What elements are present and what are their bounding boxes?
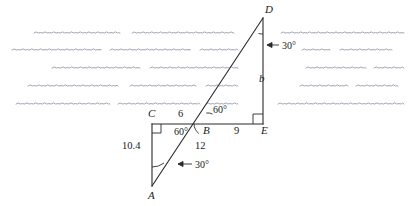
water-wave-line (150, 67, 238, 68)
arc-angle-D (259, 34, 264, 35)
water-wave-line (34, 32, 120, 33)
water-wave-line (374, 67, 404, 68)
water-wave-line (52, 67, 140, 68)
water-wave-line (118, 103, 200, 104)
water-wave-line (200, 49, 238, 50)
geometry-figure: ABCDE 6910.412b 30°60°60°30° (0, 0, 413, 206)
vertex-label-B: B (203, 124, 210, 136)
length-CB: 6 (178, 108, 183, 119)
figure-canvas: ABCDE 6910.412b 30°60°60°30° (0, 0, 413, 206)
length-labels: 6910.412b (122, 72, 265, 151)
water-wave-line (306, 67, 366, 68)
angle-at-D: 30° (282, 40, 296, 51)
water-wave-line (28, 85, 118, 86)
water-wave-line (278, 103, 404, 104)
arrow-to-angle-D (267, 43, 279, 48)
water-wave-line (206, 85, 238, 86)
angle-arcs (152, 34, 263, 168)
angle-at-A: 30° (195, 159, 209, 170)
water-wave-line (132, 32, 234, 33)
vertex-label-D: D (264, 3, 273, 15)
angle-at-B-lower: 60° (174, 126, 188, 137)
arc-angle-B-upper (206, 113, 212, 114)
arrow-to-angle-A (178, 162, 192, 167)
vertex-label-E: E (260, 124, 268, 136)
water-wave-line (356, 85, 398, 86)
length-CA: 10.4 (122, 140, 141, 151)
water-wave-line (281, 32, 404, 33)
length-DE: b (259, 72, 265, 84)
water-wave-line (16, 103, 110, 104)
water-wave-line (12, 49, 101, 50)
water-wave-line (300, 85, 348, 86)
water-wave-line (302, 49, 330, 50)
right-angle-C (152, 124, 161, 133)
arc-angle-B-lower (194, 124, 199, 134)
length-AB: 12 (195, 140, 206, 151)
water-waves (12, 32, 404, 104)
angle-pointer-arrows (178, 43, 279, 167)
water-wave-line (340, 49, 392, 50)
right-angle-E (253, 114, 263, 124)
angle-at-B-upper: 60° (213, 104, 227, 115)
vertex-label-C: C (148, 107, 156, 119)
vertex-label-A: A (147, 189, 155, 201)
length-BE: 9 (234, 125, 239, 136)
water-wave-line (110, 49, 190, 50)
arc-angle-A (152, 163, 164, 167)
water-wave-line (130, 85, 196, 86)
